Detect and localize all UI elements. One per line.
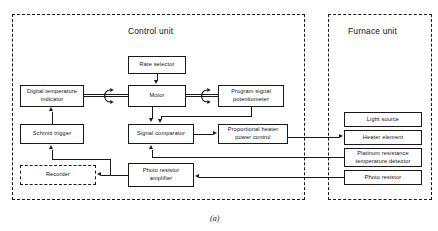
block-signal-comparator-label: Signal comparator bbox=[137, 130, 185, 138]
block-rate-selector[interactable]: Rate selector bbox=[128, 56, 186, 74]
arrowhead-schmitt-to-digital-indicator bbox=[49, 107, 53, 111]
arrowhead-rate-selector-to-motor bbox=[154, 80, 158, 84]
block-rate-selector-label: Rate selector bbox=[140, 61, 175, 69]
block-program-signal-potentiometer[interactable]: Program signal potentiometer bbox=[218, 85, 284, 107]
block-platinum-rtd-label-line2: temperature detector bbox=[356, 158, 411, 166]
wire-schmitt-to-digital-indicator bbox=[52, 112, 53, 124]
wire-amplifier-branch-riser bbox=[110, 159, 111, 175]
block-recorder-label: Recorder bbox=[46, 171, 70, 179]
arrowhead-photo-resistor-to-amplifier bbox=[195, 174, 199, 178]
block-recorder[interactable]: Recorder bbox=[20, 165, 96, 185]
mechanical-coupling-icon-right bbox=[196, 87, 211, 105]
block-digital-temperature-indicator-label-line1: Digital temperature bbox=[27, 88, 77, 96]
wire-potentiometer-to-comparator-horizontal bbox=[161, 116, 252, 117]
block-photo-resistor-label: Photo resistor bbox=[365, 174, 402, 182]
figure-canvas: Control unit Furnace unit Rate selector … bbox=[0, 0, 438, 231]
wire-platinum-rtd-to-comparator-horizontal bbox=[152, 157, 344, 158]
wire-schmitt-input-riser bbox=[52, 150, 53, 159]
furnace-unit-title: Furnace unit bbox=[348, 26, 397, 36]
mechanical-coupling-icon-left bbox=[99, 87, 114, 105]
arrowhead-amplifier-to-recorder bbox=[97, 172, 101, 176]
block-schmitt-trigger-label: Schmitt trigger bbox=[33, 130, 71, 138]
block-photo-resistor-amplifier-label-line2: amplifier bbox=[150, 175, 173, 183]
block-heater-element-label: Heater element bbox=[363, 134, 403, 142]
block-platinum-rtd-label-line1: Platinum resistance bbox=[357, 150, 409, 158]
block-light-source-label: Light source bbox=[367, 116, 399, 124]
block-program-signal-potentiometer-label-line2: potentiometer bbox=[233, 96, 269, 104]
block-proportional-heater-power-control[interactable]: Proportional heater power control bbox=[218, 124, 288, 144]
arrowhead-amplifier-to-schmitt bbox=[49, 145, 53, 149]
wire-comparator-to-heater-control bbox=[194, 134, 213, 135]
arrowhead-potentiometer-to-comparator bbox=[158, 119, 162, 123]
wire-amplifier-to-recorder bbox=[101, 175, 128, 176]
control-unit-title: Control unit bbox=[128, 26, 173, 36]
block-photo-resistor-amplifier[interactable]: Photo resistor amplifier bbox=[128, 163, 194, 187]
arrowhead-platinum-rtd-to-comparator bbox=[149, 145, 153, 149]
wire-platinum-rtd-to-comparator-riser bbox=[152, 150, 153, 157]
wire-amplifier-branch-to-schmitt bbox=[52, 159, 110, 160]
arrowhead-motor-to-comparator bbox=[149, 118, 153, 122]
block-digital-temperature-indicator[interactable]: Digital temperature indicator bbox=[20, 85, 84, 107]
block-photo-resistor[interactable]: Photo resistor bbox=[344, 170, 422, 185]
block-motor-label: Motor bbox=[149, 92, 164, 100]
block-platinum-resistance-temperature-detector[interactable]: Platinum resistance temperature detector bbox=[344, 148, 422, 167]
wire-photo-resistor-to-amplifier bbox=[199, 177, 344, 178]
figure-caption: (a) bbox=[210, 214, 219, 223]
block-program-signal-potentiometer-label-line1: Program signal bbox=[231, 88, 271, 96]
block-photo-resistor-amplifier-label-line1: Photo resistor bbox=[143, 167, 180, 175]
wire-potentiometer-down bbox=[251, 107, 252, 116]
arrowhead-heater-control-to-heater-element bbox=[339, 134, 343, 138]
block-motor[interactable]: Motor bbox=[128, 85, 186, 107]
arrowhead-comparator-to-heater-control bbox=[213, 131, 217, 135]
block-digital-temperature-indicator-label-line2: indicator bbox=[41, 96, 64, 104]
block-proportional-heater-power-control-label-line2: power control bbox=[235, 134, 271, 142]
block-light-source[interactable]: Light source bbox=[344, 112, 422, 127]
block-heater-element[interactable]: Heater element bbox=[344, 130, 422, 145]
wire-heater-control-to-heater-element bbox=[288, 137, 339, 138]
block-proportional-heater-power-control-label-line1: Proportional heater bbox=[228, 126, 278, 134]
block-signal-comparator[interactable]: Signal comparator bbox=[128, 124, 194, 144]
block-schmitt-trigger[interactable]: Schmitt trigger bbox=[20, 124, 84, 144]
